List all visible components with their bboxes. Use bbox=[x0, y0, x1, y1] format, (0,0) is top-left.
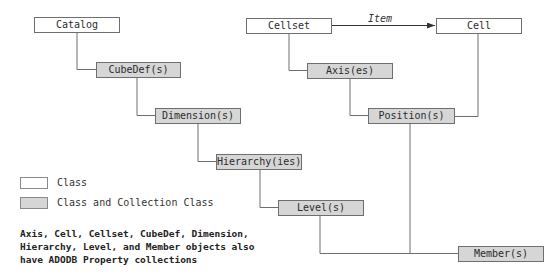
node-axis: Axis(es) bbox=[307, 63, 393, 79]
node-cell: Cell bbox=[436, 18, 522, 34]
node-catalog: Catalog bbox=[34, 17, 120, 33]
legend-collection-label: Class and Collection Class bbox=[57, 197, 214, 209]
item-edge-label: Item bbox=[368, 13, 392, 24]
node-hierarchy: Hierarchy(ies) bbox=[216, 154, 302, 170]
node-cellset: Cellset bbox=[246, 18, 332, 34]
legend-class-swatch bbox=[20, 177, 48, 189]
node-cubedef: CubeDef(s) bbox=[96, 62, 181, 78]
property-collections-note: Axis, Cell, Cellset, CubeDef, Dimension,… bbox=[20, 227, 255, 266]
node-level: Level(s) bbox=[278, 200, 364, 216]
node-position: Position(s) bbox=[368, 108, 455, 124]
node-member: Member(s) bbox=[458, 246, 544, 262]
legend-class-label: Class bbox=[57, 177, 87, 189]
legend-collection-swatch bbox=[20, 197, 48, 209]
node-dimension: Dimension(s) bbox=[155, 108, 241, 124]
